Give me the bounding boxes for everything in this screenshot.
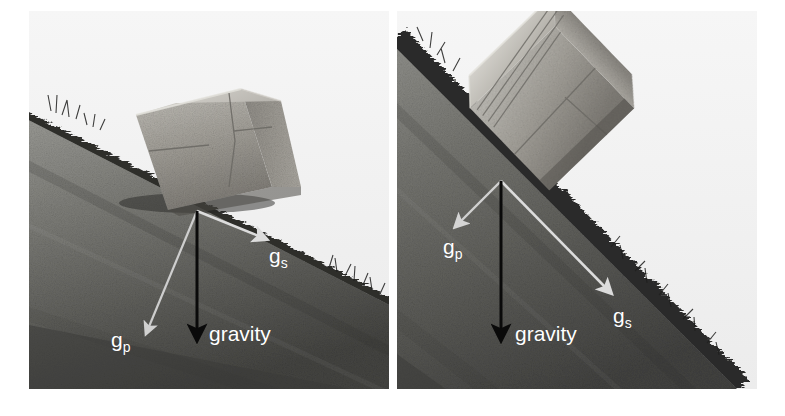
- steep-slope-illustration: gp gs gravity: [397, 11, 757, 389]
- figure-root: gs gp gravity: [0, 0, 785, 416]
- steep-slope-panel: gp gs gravity: [397, 11, 757, 389]
- gentle-slope-illustration: gs gp gravity: [29, 11, 389, 389]
- gravity-label: gravity: [515, 322, 577, 345]
- gravity-label: gravity: [209, 322, 271, 345]
- gentle-slope-panel: gs gp gravity: [29, 11, 389, 389]
